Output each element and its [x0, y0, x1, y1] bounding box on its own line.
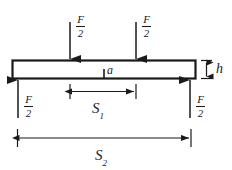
height-dimension	[201, 61, 212, 79]
load-label-right: F 2	[142, 14, 151, 39]
load-right-numerator: F	[142, 14, 151, 26]
outer-span-dimension	[18, 129, 192, 147]
load-label-left: F 2	[76, 14, 85, 39]
outer-span-label: S2	[95, 147, 107, 166]
inner-span-label: S1	[92, 100, 104, 119]
reaction-left-denominator: 2	[25, 107, 33, 119]
load-right-denominator: 2	[143, 27, 151, 39]
beam-bending-diagram: F 2 F 2 F 2 F 2 a h S1 S2	[0, 0, 232, 170]
reaction-left-numerator: F	[24, 94, 33, 106]
load-left-numerator: F	[76, 14, 85, 26]
inner-span-dimension	[70, 84, 136, 99]
outer-span-subscript: 2	[103, 158, 108, 168]
inner-span-subscript: 1	[100, 111, 105, 121]
notch-label: a	[107, 64, 113, 76]
reaction-label-right: F 2	[196, 94, 205, 119]
inner-span-symbol: S	[92, 100, 100, 116]
reaction-right-denominator: 2	[197, 107, 205, 119]
diagram-canvas	[0, 0, 232, 170]
outer-span-symbol: S	[95, 147, 103, 163]
load-left-denominator: 2	[77, 27, 85, 39]
reaction-right-numerator: F	[196, 94, 205, 106]
reaction-label-left: F 2	[24, 94, 33, 119]
height-label: h	[216, 62, 223, 76]
